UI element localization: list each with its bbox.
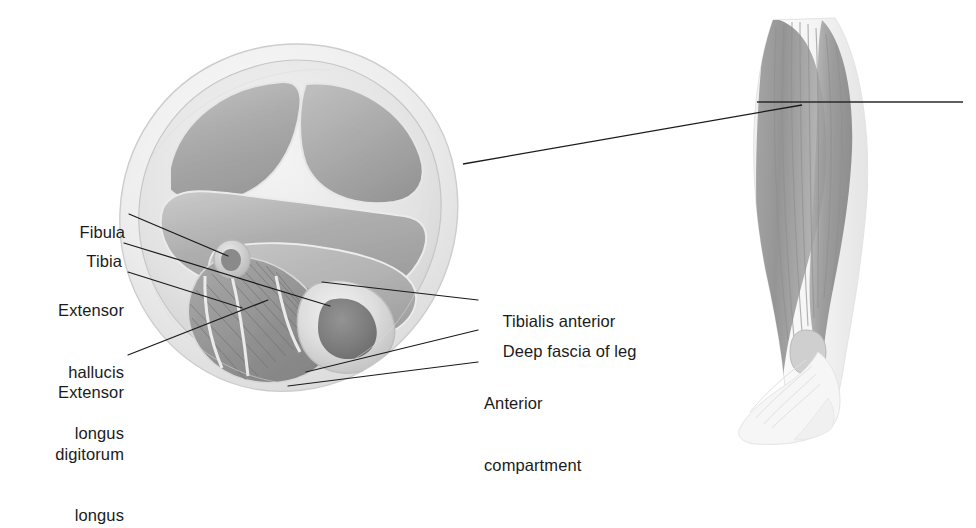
cross-section-view: [120, 44, 458, 391]
label-edl-line1: Extensor: [0, 382, 124, 403]
whole-leg-view: [739, 18, 963, 444]
label-edl-line2: digitorum: [0, 444, 124, 465]
section-connector-line: [463, 105, 802, 164]
label-extensor-digitorum-longus: Extensor digitorum longus: [0, 341, 124, 528]
label-anterior-compartment-line1: Anterior: [484, 393, 581, 414]
label-edl-line3: longus: [0, 505, 124, 526]
label-anterior-compartment-line2: compartment: [484, 455, 581, 476]
label-anterior-compartment: Anterior compartment: [484, 352, 581, 516]
label-ehl-line1: Extensor: [0, 300, 124, 321]
